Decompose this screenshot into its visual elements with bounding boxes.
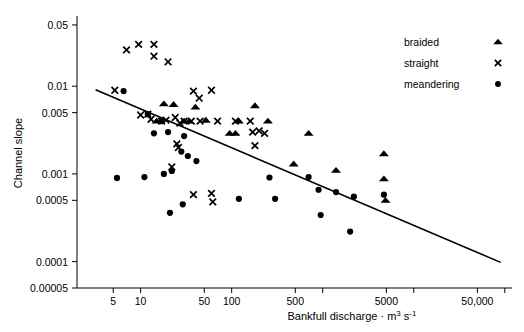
legend-label-braided: braided bbox=[404, 36, 439, 48]
point-meandering-15 bbox=[236, 196, 242, 202]
x-tick-label-3: 100 bbox=[223, 295, 241, 307]
y-tick-label-3: 0.001 bbox=[42, 168, 68, 180]
chart-figure: 0.050.010.0050.0010.00050.00010.00005510… bbox=[0, 0, 524, 332]
scatter-plot-svg: 0.050.010.0050.0010.00050.00010.00005510… bbox=[0, 0, 524, 332]
x-tick-label-2: 50 bbox=[198, 295, 210, 307]
point-straight-28 bbox=[208, 190, 215, 197]
point-braided-17 bbox=[381, 197, 391, 203]
point-straight-1 bbox=[135, 41, 142, 48]
x-tick-label-0: 5 bbox=[110, 295, 116, 307]
point-meandering-8 bbox=[193, 158, 199, 164]
point-braided-8 bbox=[250, 102, 260, 108]
data-points bbox=[111, 41, 390, 235]
point-straight-29 bbox=[209, 199, 216, 206]
point-straight-31 bbox=[252, 142, 259, 149]
point-meandering-2 bbox=[159, 118, 165, 124]
point-straight-5 bbox=[111, 87, 118, 94]
trend-line bbox=[96, 90, 501, 263]
point-straight-8 bbox=[196, 95, 203, 102]
point-braided-15 bbox=[379, 150, 389, 156]
point-meandering-20 bbox=[333, 189, 339, 195]
legend-marker-straight bbox=[495, 60, 501, 66]
point-meandering-12 bbox=[169, 168, 175, 174]
point-meandering-1 bbox=[145, 111, 151, 117]
y-axis-title: Channel slope bbox=[12, 118, 24, 188]
point-meandering-23 bbox=[381, 192, 387, 198]
x-tick-label-5: 5000 bbox=[375, 295, 399, 307]
point-meandering-24 bbox=[347, 228, 353, 234]
axis-titles: Channel slopeBankfull discharge · m3 s-1 bbox=[12, 118, 417, 322]
x-axis-title: Bankfull discharge · m3 s-1 bbox=[288, 309, 418, 322]
point-straight-0 bbox=[123, 47, 130, 54]
point-meandering-7 bbox=[185, 153, 191, 159]
point-meandering-16 bbox=[272, 196, 278, 202]
point-straight-2 bbox=[151, 41, 158, 48]
x-tick-label-4: 500 bbox=[287, 295, 305, 307]
y-tick-label-1: 0.01 bbox=[48, 80, 69, 92]
point-braided-9 bbox=[263, 118, 273, 124]
point-meandering-17 bbox=[266, 174, 272, 180]
point-straight-4 bbox=[165, 58, 172, 65]
point-straight-20 bbox=[247, 118, 254, 125]
tick-marks bbox=[72, 25, 505, 293]
point-braided-16 bbox=[379, 175, 389, 181]
point-meandering-13 bbox=[167, 210, 173, 216]
legend-marker-braided bbox=[493, 39, 503, 45]
point-meandering-10 bbox=[141, 174, 147, 180]
point-meandering-9 bbox=[114, 175, 120, 181]
point-meandering-18 bbox=[306, 174, 312, 180]
legend-label-meandering: meandering bbox=[404, 78, 460, 90]
point-braided-13 bbox=[289, 161, 299, 167]
point-meandering-6 bbox=[178, 148, 184, 154]
point-meandering-3 bbox=[151, 130, 157, 136]
x-tick-label-6: 50,000 bbox=[461, 295, 493, 307]
y-tick-label-2: 0.005 bbox=[42, 107, 68, 119]
point-braided-0 bbox=[159, 100, 169, 106]
point-meandering-22 bbox=[318, 212, 324, 218]
point-meandering-11 bbox=[161, 171, 167, 177]
axes bbox=[77, 16, 512, 288]
point-braided-1 bbox=[169, 101, 179, 107]
legend-label-straight: straight bbox=[404, 57, 439, 69]
point-braided-12 bbox=[304, 130, 314, 136]
regression-line bbox=[96, 90, 501, 263]
y-tick-label-4: 0.0005 bbox=[36, 194, 68, 206]
point-straight-3 bbox=[151, 53, 158, 60]
point-straight-30 bbox=[137, 112, 144, 119]
point-straight-21 bbox=[249, 129, 256, 136]
point-straight-6 bbox=[190, 88, 197, 95]
y-tick-label-6: 0.00005 bbox=[30, 282, 68, 294]
point-straight-7 bbox=[208, 87, 215, 94]
point-straight-18 bbox=[214, 118, 221, 125]
legend: braidedstraightmeandering bbox=[404, 36, 503, 90]
point-meandering-14 bbox=[180, 201, 186, 207]
point-straight-27 bbox=[190, 191, 197, 198]
point-braided-2 bbox=[190, 104, 200, 110]
legend-marker-meandering bbox=[495, 81, 501, 87]
point-braided-14 bbox=[331, 167, 341, 173]
point-meandering-19 bbox=[315, 187, 321, 193]
point-meandering-0 bbox=[121, 88, 127, 94]
x-tick-label-1: 10 bbox=[135, 295, 147, 307]
point-meandering-5 bbox=[181, 133, 187, 139]
point-meandering-4 bbox=[165, 129, 171, 135]
point-meandering-21 bbox=[351, 194, 357, 200]
y-tick-label-5: 0.0001 bbox=[36, 256, 68, 268]
y-tick-label-0: 0.05 bbox=[48, 19, 69, 31]
